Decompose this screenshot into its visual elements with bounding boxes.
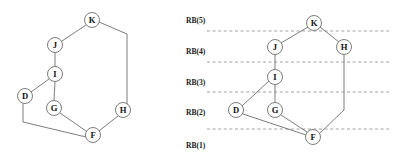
left-node-d[interactable]: D <box>18 89 33 104</box>
right-node-f[interactable]: F <box>306 130 321 145</box>
left-node-label-f: F <box>90 130 95 140</box>
left-node-label-d: D <box>22 91 28 101</box>
band-label-rb1: RB(1) <box>186 141 206 150</box>
band-label-rb3: RB(3) <box>186 78 206 87</box>
right-node-d[interactable]: D <box>229 103 244 118</box>
left-node-f[interactable]: F <box>86 128 101 143</box>
right-node-i[interactable]: I <box>268 70 283 85</box>
right-node-label-j: J <box>273 42 278 52</box>
left-node-label-g: G <box>51 103 58 113</box>
left-node-j[interactable]: J <box>48 38 63 53</box>
right-node-k[interactable]: K <box>307 16 322 31</box>
band-label-rb4: RB(4) <box>186 47 206 56</box>
band-label-rb5: RB(5) <box>186 16 206 25</box>
right-node-label-d: D <box>233 105 239 115</box>
right-node-h[interactable]: H <box>337 40 352 55</box>
right-node-g[interactable]: G <box>268 103 283 118</box>
left-node-i[interactable]: I <box>48 67 63 82</box>
left-node-h[interactable]: H <box>116 103 131 118</box>
left-node-k[interactable]: K <box>85 13 100 28</box>
right-node-label-f: F <box>310 132 315 142</box>
band-label-rb2: RB(2) <box>186 108 206 117</box>
right-node-j[interactable]: J <box>268 40 283 55</box>
left-node-label-h: H <box>120 105 127 115</box>
left-node-label-j: J <box>53 40 58 50</box>
left-node-label-k: K <box>89 15 96 25</box>
graph-figure: RB(5)RB(4)RB(3)RB(2)RB(1) KJIDGHF KJHIDG… <box>0 0 398 158</box>
right-node-label-k: K <box>311 18 318 28</box>
left-node-g[interactable]: G <box>47 101 62 116</box>
right-node-label-h: H <box>341 42 348 52</box>
right-node-label-g: G <box>272 105 279 115</box>
